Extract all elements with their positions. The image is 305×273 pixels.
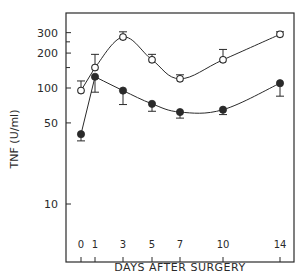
open-circle-marker <box>120 34 127 41</box>
series-open-circles <box>77 31 284 94</box>
x-axis-ticks: 013571014 <box>78 239 287 262</box>
filled-circle-marker <box>77 131 84 138</box>
x-tick-label: 5 <box>149 239 155 250</box>
filled-circle-marker <box>148 100 155 107</box>
filled-circle-marker <box>219 106 226 113</box>
open-circle-marker <box>177 76 184 83</box>
y-tick-label: 50 <box>44 117 58 130</box>
filled-circle-marker <box>176 108 183 115</box>
series-filled-circles <box>77 73 284 141</box>
y-tick-label: 200 <box>37 47 58 60</box>
data-series <box>77 31 284 141</box>
open-circle-marker <box>220 57 227 64</box>
series-line <box>81 77 95 134</box>
x-axis-label: DAYS AFTER SURGERY <box>114 261 245 273</box>
filled-circle-marker <box>276 80 283 87</box>
x-tick-label: 3 <box>120 239 126 250</box>
x-tick-label: 7 <box>177 239 183 250</box>
plot-frame <box>66 13 294 262</box>
series-curve <box>95 34 280 78</box>
open-circle-marker <box>149 57 156 64</box>
y-tick-label: 100 <box>37 82 58 95</box>
x-tick-label: 10 <box>217 239 230 250</box>
open-circle-marker <box>92 64 99 71</box>
filled-circle-marker <box>91 73 98 80</box>
filled-circle-marker <box>119 87 126 94</box>
y-tick-label: 10 <box>44 198 58 211</box>
x-tick-label: 0 <box>78 239 84 250</box>
open-circle-marker <box>277 31 284 38</box>
open-circle-marker <box>78 87 85 94</box>
y-tick-label: 300 <box>37 27 58 40</box>
x-tick-label: 14 <box>274 239 287 250</box>
x-tick-label: 1 <box>92 239 98 250</box>
y-axis-label: TNF (U/ml) <box>8 110 21 170</box>
chart-canvas: 1050100200300 013571014 DAYS AFTER SURGE… <box>0 0 305 273</box>
